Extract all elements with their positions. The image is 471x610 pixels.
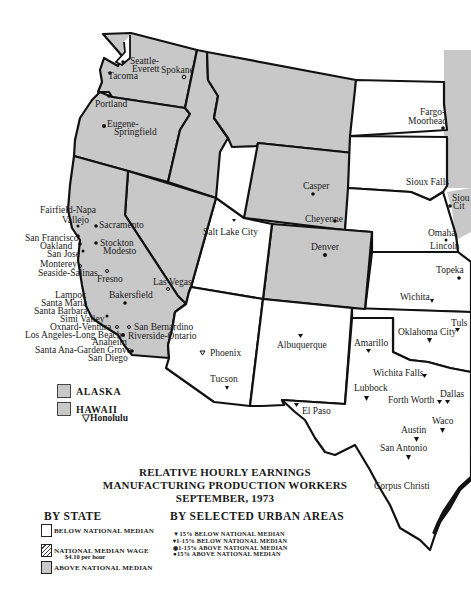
- triangle-open-icon: ▽: [82, 413, 90, 423]
- marker-siouxcity: [448, 204, 452, 208]
- svg-text:Tacoma: Tacoma: [108, 71, 139, 81]
- marker-stockton: [94, 241, 98, 245]
- svg-text:Omaha: Omaha: [428, 228, 456, 238]
- svg-text:Albuquerque: Albuquerque: [277, 340, 327, 350]
- svg-text:Fresno: Fresno: [97, 274, 123, 284]
- marker-denver: [323, 253, 327, 257]
- svg-text:Phoenix: Phoenix: [210, 348, 241, 358]
- marker-oakland: [78, 242, 82, 246]
- marker-topeka: [457, 276, 461, 280]
- svg-text:Modesto: Modesto: [103, 246, 137, 256]
- marker-bakersfield: [123, 301, 127, 305]
- svg-text:El Paso: El Paso: [302, 406, 331, 416]
- svg-text:Wichita Falls: Wichita Falls: [373, 368, 424, 378]
- svg-text:Cit: Cit: [453, 201, 465, 211]
- svg-text:Las Vegas: Las Vegas: [153, 277, 192, 287]
- swatch-gray-icon: [41, 561, 52, 574]
- swatch-white-icon: [41, 524, 52, 537]
- marker-fargo: [441, 126, 445, 130]
- marker-sanjose: [82, 250, 85, 253]
- svg-text:Spokane: Spokane: [161, 65, 194, 75]
- svg-text:Portland: Portland: [95, 99, 127, 109]
- svg-text:Vallejo: Vallejo: [62, 215, 89, 225]
- svg-text:Salt Lake City: Salt Lake City: [203, 227, 258, 237]
- svg-text:Topeka: Topeka: [436, 265, 465, 275]
- svg-text:Springfield: Springfield: [114, 127, 157, 137]
- legend-median-wage-value: $4.10 per hour: [65, 553, 106, 560]
- svg-text:Oklahoma City: Oklahoma City: [398, 327, 457, 337]
- legend-urban-item: ●15% ABOVE NATIONAL MEDIAN: [173, 551, 288, 558]
- legend-urban-list: ▼15% BELOW NATIONAL MEDIAN ▾1-15% BELOW …: [173, 531, 288, 558]
- legend-below-median: BELOW NATIONAL MEDIAN: [41, 524, 154, 537]
- honolulu-label: ▽Honolulu: [82, 412, 128, 423]
- svg-text:Riverside-Ontario: Riverside-Ontario: [128, 331, 197, 341]
- svg-text:Dallas: Dallas: [440, 389, 465, 399]
- title-line-2: MANUFACTURING PRODUCTION WORKERS: [60, 479, 390, 492]
- title-line-1: RELATIVE HOURLY EARNINGS: [60, 466, 390, 479]
- svg-text:Casper: Casper: [303, 181, 330, 191]
- title-line-3: SEPTEMBER, 1973: [60, 492, 390, 505]
- svg-text:Tucson: Tucson: [210, 374, 238, 384]
- legend-by-urban-heading: BY SELECTED URBAN AREAS: [170, 510, 344, 522]
- svg-text:Waco: Waco: [432, 416, 454, 426]
- svg-text:Seaside-Salinas: Seaside-Salinas: [38, 268, 98, 278]
- inset-alaska: ALASKA: [57, 384, 121, 398]
- state-new-mexico: [250, 299, 352, 406]
- svg-text:Amarillo: Amarillo: [354, 338, 389, 348]
- alaska-swatch: [57, 384, 71, 398]
- svg-text:Wichita: Wichita: [400, 292, 430, 302]
- svg-text:Sioux Falls: Sioux Falls: [406, 177, 449, 187]
- svg-text:Denver: Denver: [311, 242, 340, 252]
- state-colorado: [263, 224, 372, 309]
- svg-text:Bakersfield: Bakersfield: [109, 290, 153, 300]
- alaska-label: ALASKA: [76, 386, 121, 397]
- legend-by-state-heading: BY STATE: [44, 510, 102, 522]
- svg-text:San Jose: San Jose: [47, 249, 80, 259]
- svg-text:Sacramento: Sacramento: [99, 220, 144, 230]
- svg-text:Fairfield-Napa: Fairfield-Napa: [40, 205, 97, 215]
- map-title: RELATIVE HOURLY EARNINGS MANUFACTURING P…: [60, 466, 390, 505]
- svg-text:Austin: Austin: [401, 425, 427, 435]
- marker-sacramento: [94, 224, 98, 228]
- marker-eugene: [102, 124, 106, 128]
- svg-text:San Antonio: San Antonio: [380, 443, 427, 453]
- svg-text:Lubbock: Lubbock: [354, 383, 388, 393]
- svg-text:Moorhead: Moorhead: [408, 116, 447, 126]
- state-kansas: [365, 252, 471, 312]
- svg-text:San Diego: San Diego: [88, 353, 128, 363]
- marker-simi: [106, 315, 109, 318]
- svg-text:Cheyenne: Cheyenne: [305, 214, 343, 224]
- legend-above-median: ABOVE NATIONAL MEDIAN: [41, 561, 153, 574]
- marker-seattle: [121, 60, 125, 64]
- swatch-hatched-icon: [41, 544, 52, 557]
- state-montana: [207, 52, 356, 153]
- svg-text:Lincoln: Lincoln: [430, 241, 460, 251]
- svg-text:Forth Worth: Forth Worth: [388, 395, 435, 405]
- marker-portland: [107, 94, 111, 98]
- marker-casper: [311, 192, 315, 196]
- hawaii-swatch: [57, 402, 71, 416]
